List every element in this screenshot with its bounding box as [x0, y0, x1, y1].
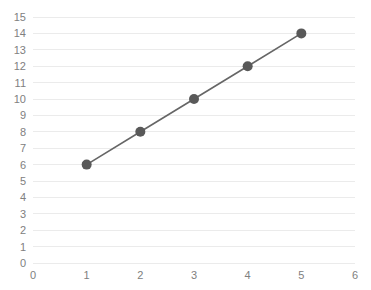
data-point-marker[interactable] — [82, 160, 92, 170]
x-axis-tick-label: 0 — [30, 269, 36, 281]
data-point-marker[interactable] — [243, 61, 253, 71]
y-axis-tick-label: 10 — [14, 93, 26, 105]
x-axis-tick-label: 4 — [245, 269, 251, 281]
data-point-marker[interactable] — [135, 127, 145, 137]
y-axis-tick-label: 15 — [14, 11, 26, 23]
y-axis-tick-label: 8 — [20, 126, 26, 138]
x-axis-tick-label: 6 — [352, 269, 358, 281]
y-axis-tick-label: 3 — [20, 208, 26, 220]
data-point-marker[interactable] — [189, 94, 199, 104]
y-axis-tick-label: 2 — [20, 224, 26, 236]
x-axis-tick-label: 5 — [298, 269, 304, 281]
y-axis-tick-label: 12 — [14, 60, 26, 72]
y-axis-tick-label: 1 — [20, 241, 26, 253]
x-axis-tick-label: 2 — [137, 269, 143, 281]
y-axis-tick-label: 0 — [20, 257, 26, 269]
y-axis-tick-label: 6 — [20, 159, 26, 171]
x-axis-tick-label: 3 — [191, 269, 197, 281]
y-axis-tick-label: 14 — [14, 27, 26, 39]
x-axis-tick-label: 1 — [84, 269, 90, 281]
chart-canvas: 0123456789101112131415 0123456 — [0, 0, 371, 290]
y-axis-tick-label: 5 — [20, 175, 26, 187]
line-chart: 0123456789101112131415 0123456 — [0, 0, 371, 290]
data-point-marker[interactable] — [296, 28, 306, 38]
y-axis-tick-label: 11 — [15, 77, 26, 89]
y-axis-tick-label: 13 — [14, 44, 26, 56]
y-axis-tick-label: 4 — [20, 191, 26, 203]
y-axis-tick-label: 9 — [20, 109, 26, 121]
y-axis-tick-label: 7 — [20, 142, 26, 154]
